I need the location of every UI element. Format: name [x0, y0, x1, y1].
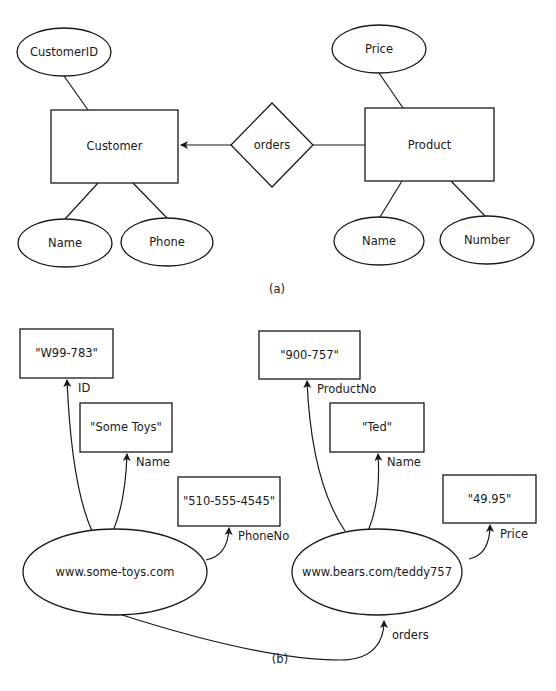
entity-customer-label: Customer — [87, 139, 143, 153]
edge-bear-name-label: Name — [387, 455, 421, 469]
customer-phone-connector — [133, 183, 167, 218]
resource-some-toys-label: www.some-toys.com — [56, 565, 175, 579]
resource-teddy757-label: www.bears.com/teddy757 — [302, 565, 452, 579]
literal-toys-name-label: "Some Toys" — [90, 420, 162, 434]
attribute-product-name-label: Name — [362, 234, 396, 248]
diagram-canvas: Customer Product orders CustomerID Name … — [0, 0, 556, 691]
caption-b: (b) — [272, 652, 288, 666]
attribute-product-number[interactable]: Number — [440, 216, 534, 264]
attribute-customer-name[interactable]: Name — [18, 219, 112, 267]
customer-name-connector — [65, 183, 98, 219]
edge-price — [469, 525, 490, 559]
edge-product-no-label: ProductNo — [317, 382, 376, 396]
edge-orders — [119, 614, 384, 660]
literal-toys-phone-label: "510-555-4545" — [183, 494, 275, 508]
edge-toys-name — [113, 454, 127, 531]
literal-bear-product-no[interactable]: "900-757" — [259, 331, 360, 379]
edge-phone-label: PhoneNo — [238, 529, 289, 543]
attribute-product-number-label: Number — [464, 233, 510, 247]
attribute-product-price[interactable]: Price — [332, 25, 426, 73]
literal-toys-phone[interactable]: "510-555-4545" — [178, 477, 280, 526]
entity-product[interactable]: Product — [365, 108, 494, 181]
resource-some-toys[interactable]: www.some-toys.com — [23, 529, 207, 615]
edge-phone — [206, 528, 229, 560]
attribute-product-price-label: Price — [365, 42, 393, 56]
product-name-connector — [380, 181, 402, 217]
literal-bear-price-label: "49.95" — [468, 492, 512, 506]
product-number-connector — [451, 181, 485, 216]
literal-bear-price[interactable]: "49.95" — [443, 475, 536, 523]
customerid-connector — [64, 76, 88, 110]
rdf-graph: ID Name PhoneNo ProductNo Name Price ord… — [20, 329, 536, 666]
attribute-customer-phone[interactable]: Phone — [121, 218, 213, 266]
resource-teddy757[interactable]: www.bears.com/teddy757 — [292, 529, 462, 615]
relationship-orders-label: orders — [254, 138, 291, 152]
caption-a: (a) — [269, 282, 285, 296]
edge-toys-name-label: Name — [136, 455, 170, 469]
attribute-customerid[interactable]: CustomerID — [17, 28, 111, 76]
literal-bear-name[interactable]: "Ted" — [330, 403, 424, 452]
relationship-orders[interactable]: orders — [231, 103, 313, 187]
edge-id-label: ID — [78, 381, 90, 395]
literal-toys-id-label: "W99-783" — [35, 346, 98, 360]
er-diagram: Customer Product orders CustomerID Name … — [17, 25, 534, 296]
literal-bear-product-no-label: "900-757" — [280, 348, 339, 362]
entity-customer[interactable]: Customer — [51, 110, 178, 183]
literal-toys-id[interactable]: "W99-783" — [20, 329, 113, 378]
entity-product-label: Product — [408, 138, 452, 152]
literal-toys-name[interactable]: "Some Toys" — [80, 403, 172, 452]
edge-bear-name — [368, 454, 379, 531]
attribute-customerid-label: CustomerID — [30, 45, 98, 59]
price-connector — [379, 73, 403, 108]
literal-bear-name-label: "Ted" — [362, 420, 392, 434]
attribute-customer-name-label: Name — [48, 236, 82, 250]
attribute-product-name[interactable]: Name — [334, 217, 424, 265]
edge-price-label: Price — [500, 527, 528, 541]
attribute-customer-phone-label: Phone — [149, 235, 185, 249]
edge-orders-label: orders — [392, 628, 429, 642]
